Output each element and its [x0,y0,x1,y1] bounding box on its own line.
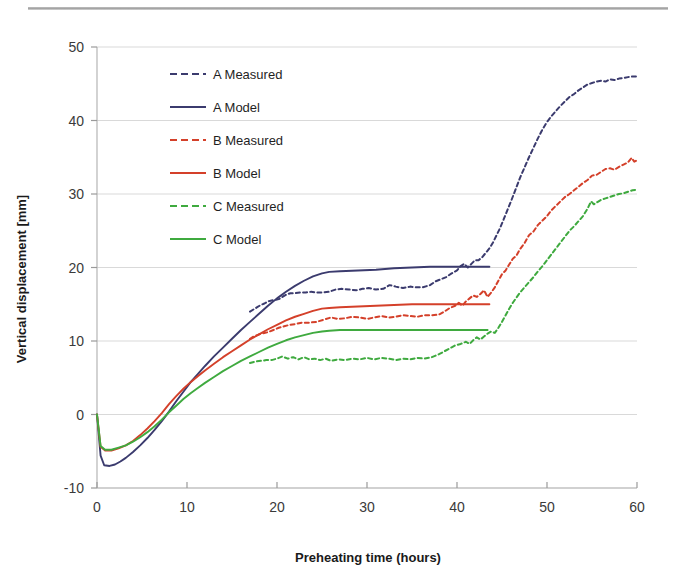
x-tick-label: 40 [449,499,465,515]
chart-legend: A MeasuredA ModelB MeasuredB ModelC Meas… [170,67,284,247]
legend-label-2: B Measured [213,133,283,148]
y-tick-labels: -1001020304050 [64,39,84,496]
x-tick-label: 60 [629,499,645,515]
y-tick-label: 0 [76,407,84,423]
y-axis [91,47,97,488]
x-axis [97,482,637,488]
chart-figure: -1001020304050 0102030405060 A MeasuredA… [0,14,677,576]
legend-label-4: C Measured [213,199,284,214]
legend-label-5: C Model [213,232,262,247]
legend-label-3: B Model [213,166,261,181]
legend-label-1: A Model [213,100,260,115]
series-a_model [97,267,489,466]
series-c_measured [250,190,637,363]
x-tick-label: 0 [93,499,101,515]
y-tick-label: 20 [68,260,84,276]
x-tick-label: 30 [359,499,375,515]
series-c_model [97,330,488,450]
y-axis-title: Vertical displacement [mm] [14,195,29,363]
x-axis-title: Preheating time (hours) [295,550,441,565]
y-tick-label: 50 [68,39,84,55]
x-tick-label: 50 [539,499,555,515]
page-top-rule [28,7,668,10]
gridlines [97,47,637,488]
y-tick-label: 10 [68,333,84,349]
y-tick-label: 40 [68,113,84,129]
y-tick-label: 30 [68,186,84,202]
x-tick-label: 10 [179,499,195,515]
series-layer [97,76,637,466]
chart-svg: -1001020304050 0102030405060 A MeasuredA… [0,14,677,576]
legend-label-0: A Measured [213,67,282,82]
page-canvas: -1001020304050 0102030405060 A MeasuredA… [0,0,677,576]
x-tick-label: 20 [269,499,285,515]
y-tick-label: -10 [64,480,84,496]
x-tick-labels: 0102030405060 [93,499,645,515]
